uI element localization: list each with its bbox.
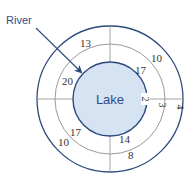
river-arrow: [36, 28, 81, 72]
value-bottom-left-inner: 17: [70, 126, 82, 138]
value-bottom-right-outer: 8: [128, 149, 134, 161]
value-bottom-left-outer: 10: [58, 136, 70, 148]
value-top-right-outer: 10: [151, 52, 163, 64]
ring-label-inner: 2: [140, 97, 151, 102]
lake-label: Lake: [96, 92, 124, 107]
value-top-left-inner: 20: [62, 75, 74, 87]
ring-label-middle: 3: [157, 103, 168, 108]
value-bottom-right-inner: 14: [119, 133, 131, 145]
value-top-left-outer: 13: [80, 37, 92, 49]
lake-contour-diagram: Lake River 13 20 10 17 10 17 14 8 2 3 4: [0, 0, 193, 181]
value-top-right-inner: 17: [135, 64, 147, 76]
ring-label-outer: 4: [175, 105, 186, 110]
river-label: River: [6, 14, 32, 26]
